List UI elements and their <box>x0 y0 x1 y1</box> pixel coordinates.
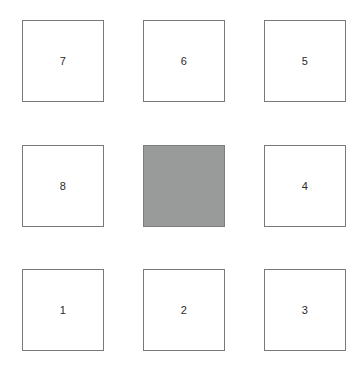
tile-label: 5 <box>302 56 308 67</box>
tile-7[interactable]: 7 <box>22 20 104 102</box>
tile-5[interactable]: 5 <box>264 20 346 102</box>
tile-4[interactable]: 4 <box>264 145 346 227</box>
tile-blank[interactable] <box>143 145 225 227</box>
puzzle-board: 7 6 5 8 4 1 2 3 <box>0 0 361 370</box>
tile-8[interactable]: 8 <box>22 145 104 227</box>
tile-label: 8 <box>60 181 66 192</box>
tile-2[interactable]: 2 <box>143 269 225 351</box>
tile-label: 1 <box>60 305 66 316</box>
tile-3[interactable]: 3 <box>264 269 346 351</box>
tile-6[interactable]: 6 <box>143 20 225 102</box>
tile-label: 2 <box>181 305 187 316</box>
tile-label: 4 <box>302 181 308 192</box>
tile-label: 6 <box>181 56 187 67</box>
tile-label: 3 <box>302 305 308 316</box>
tile-label: 7 <box>60 56 66 67</box>
tile-1[interactable]: 1 <box>22 269 104 351</box>
